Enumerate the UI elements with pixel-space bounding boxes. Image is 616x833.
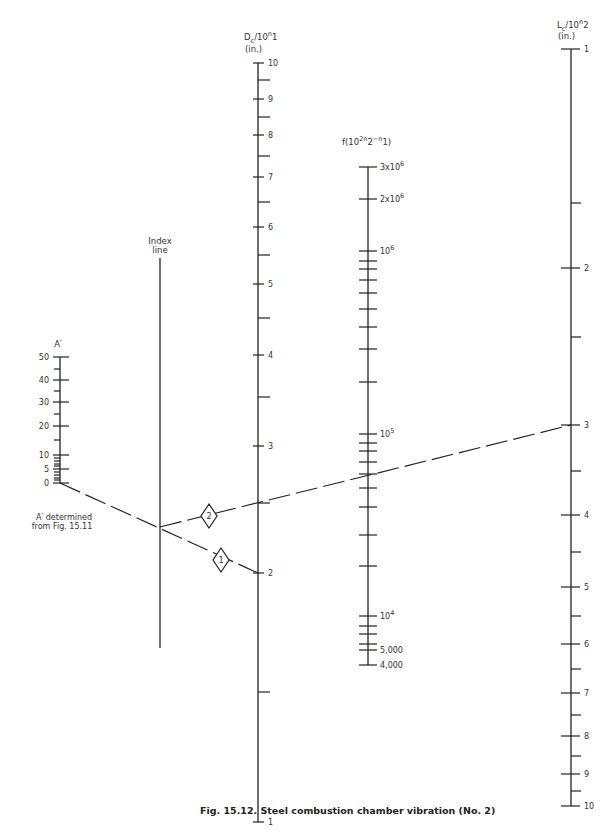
nomograph: 504030201050A′ Indexline 10987654321Dc/1… bbox=[0, 0, 616, 833]
tick-label: 3 bbox=[584, 421, 589, 430]
tick-label: 6 bbox=[268, 223, 273, 232]
tick-label: 2 bbox=[268, 569, 273, 578]
tick-label: 9 bbox=[268, 95, 273, 104]
tick-label: 30 bbox=[39, 398, 49, 407]
tick-label: 10 bbox=[268, 59, 278, 68]
tick-label: 5 bbox=[268, 280, 273, 289]
tick-label: 105 bbox=[380, 427, 394, 439]
tick-label: 8 bbox=[584, 732, 589, 741]
tick-label: 1 bbox=[268, 818, 273, 827]
tick-label: 4 bbox=[584, 511, 589, 520]
solution-line-2 bbox=[160, 425, 571, 527]
step-number: 2 bbox=[206, 512, 211, 521]
tick-label: 10 bbox=[584, 802, 594, 811]
annotation-line-1: A′ determined bbox=[36, 513, 92, 522]
tick-label: 104 bbox=[380, 609, 394, 621]
lc-scale: 12345678910Lc/10n2(in.) bbox=[557, 18, 594, 811]
tick-label: 5 bbox=[44, 465, 49, 474]
tick-label: 2 bbox=[584, 264, 589, 273]
a-prime-title: A′ bbox=[54, 339, 62, 349]
tick-label: 6 bbox=[584, 640, 589, 649]
tick-label: 106 bbox=[380, 244, 394, 256]
index-line: Indexline bbox=[148, 236, 171, 648]
solution-lines: 12 bbox=[60, 425, 571, 573]
tick-label: 20 bbox=[39, 422, 49, 431]
tick-label: 3 bbox=[268, 442, 273, 451]
index-title-2: line bbox=[152, 245, 167, 255]
tick-label: 2x106 bbox=[380, 192, 404, 204]
f-title: f(102n2−n1) bbox=[342, 135, 391, 147]
dc-title: Dc/10n1 bbox=[244, 30, 277, 45]
dc-scale: 10987654321Dc/10n1(in.) bbox=[244, 30, 278, 827]
tick-label: 50 bbox=[39, 353, 49, 362]
tick-label: 5,000 bbox=[380, 646, 403, 655]
a-prime-scale: 504030201050A′ bbox=[39, 339, 69, 488]
figure-caption: Fig. 15.12. Steel combustion chamber vib… bbox=[200, 805, 495, 816]
tick-label: 7 bbox=[268, 173, 273, 182]
tick-label: 4,000 bbox=[380, 661, 403, 670]
tick-label: 1 bbox=[584, 45, 589, 54]
frequency-scale: 3x1062x1061061051045,0004,000f(102n2−n1) bbox=[342, 135, 404, 670]
tick-label: 3x106 bbox=[380, 160, 404, 172]
tick-label: 4 bbox=[268, 351, 273, 360]
dc-unit: (in.) bbox=[245, 44, 262, 54]
tick-label: 7 bbox=[584, 689, 589, 698]
tick-label: 5 bbox=[584, 583, 589, 592]
step-number: 1 bbox=[218, 556, 223, 565]
tick-label: 9 bbox=[584, 770, 589, 779]
tick-label: 0 bbox=[44, 479, 49, 488]
annotation-line-2: from Fig. 15.11 bbox=[32, 522, 92, 531]
tick-label: 40 bbox=[39, 376, 49, 385]
lc-unit: (in.) bbox=[558, 31, 575, 41]
tick-label: 8 bbox=[268, 131, 273, 140]
tick-label: 10 bbox=[39, 451, 49, 460]
